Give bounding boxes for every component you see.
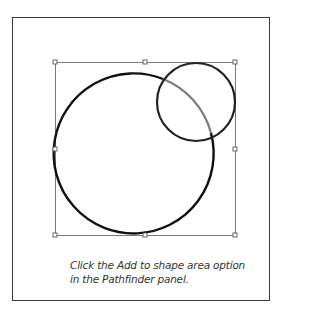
overlap-arc [163, 79, 211, 133]
handle-top-center[interactable] [143, 60, 147, 64]
handle-bottom-center[interactable] [143, 233, 147, 237]
handle-bottom-right[interactable] [233, 233, 237, 237]
handle-middle-left[interactable] [53, 147, 57, 151]
large-circle[interactable] [54, 73, 214, 233]
handle-top-left[interactable] [53, 60, 57, 64]
handle-bottom-left[interactable] [53, 233, 57, 237]
caption-line-1: Click the Add to shape area option [70, 258, 260, 272]
handle-top-right[interactable] [233, 60, 237, 64]
handle-middle-right[interactable] [233, 147, 237, 151]
caption-line-2: in the Pathfinder panel. [70, 272, 260, 286]
figure-caption: Click the Add to shape area option in th… [70, 258, 260, 286]
selection-bounding-box [56, 63, 236, 236]
selection-handles[interactable] [53, 60, 237, 237]
